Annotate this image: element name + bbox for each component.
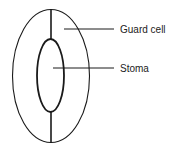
label-guard-cell: Guard cell (64, 24, 166, 35)
stoma-label: Stoma (120, 63, 149, 74)
stoma-pore-outline (37, 39, 64, 112)
stoma-diagram: Guard cell Stoma (0, 0, 170, 156)
guard-cell-label: Guard cell (120, 24, 166, 35)
label-stoma: Stoma (53, 63, 149, 74)
